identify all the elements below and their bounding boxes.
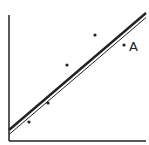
data-point-a (122, 43, 125, 46)
fit-line-thin (9, 18, 146, 135)
point-label-a: A (129, 39, 138, 54)
scatter-plot: A (0, 0, 149, 145)
fit-line-thick (9, 13, 146, 130)
data-point (93, 33, 96, 36)
data-point (65, 63, 68, 66)
data-point (46, 101, 49, 104)
data-point (27, 120, 30, 123)
